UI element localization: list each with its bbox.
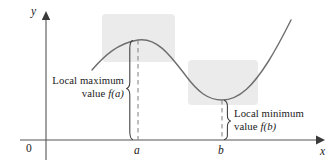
shaded-region-maximum bbox=[102, 14, 175, 62]
tick-label-a: a bbox=[134, 144, 140, 158]
callout-local-minimum: Local minimum value f(b) bbox=[234, 107, 336, 132]
origin-label: 0 bbox=[26, 142, 32, 156]
callout-local-maximum-value-prefix: value bbox=[82, 87, 108, 99]
x-axis-label: x bbox=[320, 145, 325, 159]
x-axis-arrowhead bbox=[316, 136, 325, 145]
callout-local-maximum-value-expression: f(a) bbox=[108, 87, 124, 99]
y-axis-arrowhead bbox=[42, 11, 50, 20]
callout-local-minimum-line2: value f(b) bbox=[234, 120, 336, 133]
callout-local-maximum-line1: Local maximum bbox=[25, 74, 124, 87]
y-axis-label: y bbox=[31, 5, 36, 19]
brace-minimum-value bbox=[225, 101, 231, 140]
callout-local-maximum: Local maximum value f(a) bbox=[25, 74, 124, 99]
callout-local-minimum-value-expression: f(b) bbox=[260, 120, 276, 132]
shaded-region-minimum bbox=[188, 60, 258, 105]
callout-local-minimum-line1: Local minimum bbox=[234, 107, 336, 120]
callout-local-maximum-line2: value f(a) bbox=[25, 87, 124, 100]
function-graph-figure: y x 0 a b Local maximum value f(a) Local… bbox=[0, 0, 336, 166]
tick-label-b: b bbox=[218, 144, 224, 158]
callout-local-minimum-value-prefix: value bbox=[234, 120, 260, 132]
